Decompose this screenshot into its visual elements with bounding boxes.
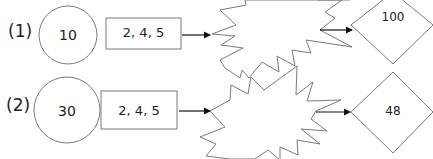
circle-value-1: 10 [48, 27, 88, 43]
row-label-1: (1) [8, 21, 32, 41]
diagram-canvas [0, 0, 433, 159]
diamond-value-1: 100 [373, 10, 413, 24]
diamond-value-2: 48 [373, 104, 413, 118]
starburst-1 [212, 0, 352, 78]
box-values-2: 2, 4, 5 [101, 103, 177, 118]
box-values-1: 2, 4, 5 [106, 25, 181, 40]
circle-value-2: 30 [47, 103, 87, 119]
row-label-2: (2) [6, 95, 30, 115]
